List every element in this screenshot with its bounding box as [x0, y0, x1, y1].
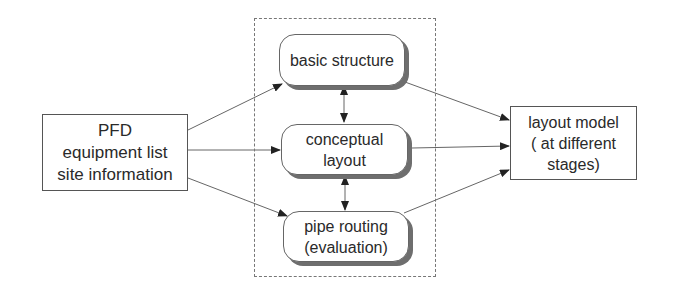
output-line-1: layout model: [528, 112, 619, 133]
step-pipe-routing-label: pipe routing (evaluation): [304, 216, 388, 258]
inputs-box: PFD equipment list site information: [42, 114, 188, 191]
diagram-canvas: PFD equipment list site information basi…: [0, 0, 679, 301]
step-basic-structure: basic structure: [279, 34, 405, 86]
output-line-2: ( at different: [528, 133, 619, 154]
step-basic-structure-label: basic structure: [290, 50, 394, 71]
step-conceptual-layout-label: conceptual layout: [306, 129, 383, 171]
inputs-line-equipment-list: equipment list: [57, 142, 172, 164]
output-box: layout model ( at different stages): [510, 106, 637, 180]
inputs-line-pfd: PFD: [57, 120, 172, 142]
step-pipe-routing: pipe routing (evaluation): [283, 211, 409, 262]
output-line-3: stages): [528, 154, 619, 175]
step-conceptual-layout: conceptual layout: [281, 124, 408, 175]
inputs-line-site-information: site information: [57, 164, 172, 186]
